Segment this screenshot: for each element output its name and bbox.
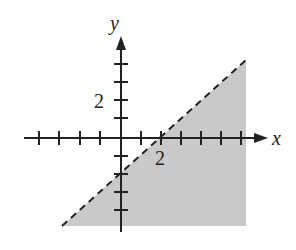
x-axis-label: x (271, 127, 281, 149)
x-tick-label: 2 (155, 147, 165, 169)
inequality-graph: x y 2 2 (0, 0, 296, 250)
x-axis-arrow (254, 133, 268, 143)
y-axis-label: y (108, 12, 119, 35)
y-tick-label: 2 (94, 90, 104, 112)
y-axis-arrow (116, 36, 126, 50)
